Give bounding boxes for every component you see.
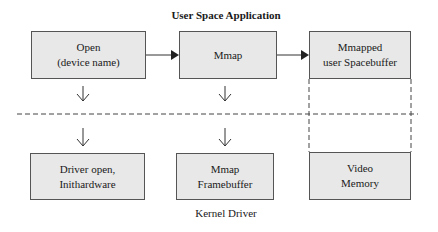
mmap-label: Mmap: [214, 48, 243, 63]
mmap-framebuffer-line2: Framebuffer: [198, 177, 253, 192]
diagram-title: User Space Application: [0, 9, 438, 21]
down-arrow-open-upper: [77, 86, 89, 101]
arrow-mmap-to-buffer: [277, 50, 309, 60]
down-arrow-open-lower: [77, 128, 89, 146]
kernel-driver-caption: Kernel Driver: [176, 207, 276, 219]
mmapped-buffer-line2: user Spacebuffer: [323, 55, 397, 70]
driver-open-box: Driver open, Inithardware: [30, 153, 145, 200]
driver-open-line1: Driver open,: [60, 162, 116, 177]
open-device-line1: Open: [77, 40, 101, 55]
video-memory-line2: Memory: [341, 176, 379, 191]
arrow-open-to-mmap: [146, 50, 179, 60]
mmapped-user-buffer-box: Mmapped user Spacebuffer: [309, 31, 411, 79]
mmap-box: Mmap: [179, 31, 277, 79]
driver-open-line2: Inithardware: [59, 177, 115, 192]
video-memory-line1: Video: [347, 161, 373, 176]
video-memory-box: Video Memory: [309, 152, 411, 200]
open-device-box: Open (device name): [31, 31, 146, 79]
mmapped-buffer-line1: Mmapped: [338, 40, 383, 55]
mmap-framebuffer-line1: Mmap: [211, 162, 240, 177]
mmap-framebuffer-box: Mmap Framebuffer: [176, 153, 274, 200]
down-arrow-mmap-upper: [219, 86, 231, 101]
open-device-line2: (device name): [57, 55, 120, 70]
down-arrow-mmap-lower: [219, 128, 231, 146]
